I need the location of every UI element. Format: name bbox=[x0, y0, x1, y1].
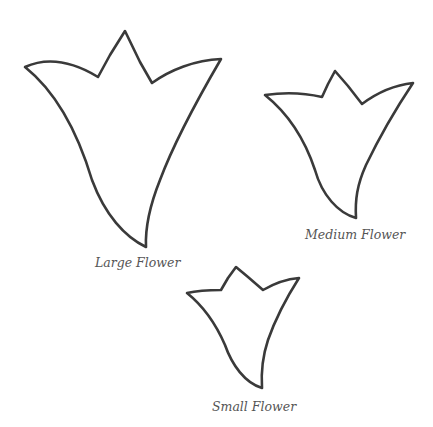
small-flower-label: Small Flower bbox=[212, 401, 296, 414]
large-flower-label: Large Flower bbox=[95, 257, 180, 270]
flower-template-sheet: Large Flower Medium Flower Small Flower bbox=[0, 0, 433, 427]
small-flower-outline bbox=[187, 267, 299, 388]
medium-flower-label: Medium Flower bbox=[305, 229, 405, 242]
medium-flower-outline bbox=[265, 71, 413, 218]
templates-drawing bbox=[0, 0, 433, 427]
large-flower-outline bbox=[25, 31, 221, 247]
